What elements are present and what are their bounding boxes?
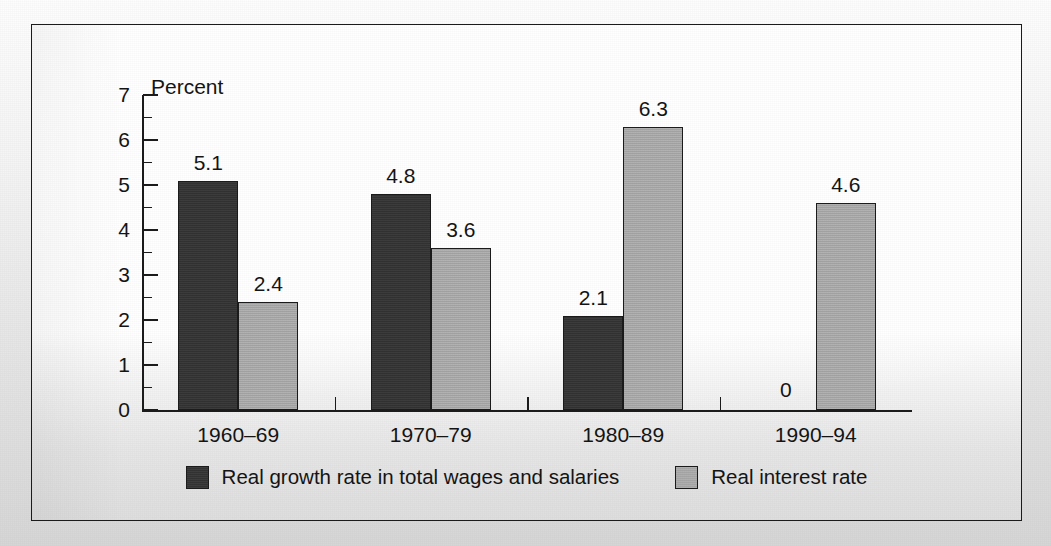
chart-legend: Real growth rate in total wages and sala… [32, 465, 1021, 489]
y-tick-minor [143, 387, 152, 389]
y-tick-minor [143, 162, 152, 164]
legend-item: Real growth rate in total wages and sala… [186, 465, 620, 489]
y-tick-label: 6 [118, 128, 130, 152]
y-tick-minor [143, 342, 152, 344]
y-tick-label: 3 [118, 263, 130, 287]
y-tick-minor [143, 117, 152, 119]
bar-value-label: 5.1 [194, 151, 223, 175]
bar-value-label: 3.6 [446, 218, 475, 242]
y-tick-major [143, 229, 158, 231]
chart-figure-frame: Percent 01234567 5.12.44.83.62.16.304.6 … [31, 24, 1022, 521]
y-tick-minor [143, 297, 152, 299]
scanned-page: Percent 01234567 5.12.44.83.62.16.304.6 … [0, 0, 1051, 546]
bar-value-label: 2.4 [254, 272, 283, 296]
bar [431, 248, 491, 410]
y-tick-label: 1 [118, 353, 130, 377]
y-tick-label: 4 [118, 218, 130, 242]
bar [563, 316, 623, 411]
y-tick-major [143, 364, 158, 366]
category-separator-tick [527, 397, 529, 410]
category-separator-tick [720, 397, 722, 410]
y-tick-label: 2 [118, 308, 130, 332]
y-tick-label: 7 [118, 83, 130, 107]
bar [623, 127, 683, 411]
x-axis-category-label: 1970–79 [390, 423, 472, 447]
legend-item: Real interest rate [675, 465, 867, 489]
category-separator-tick [335, 397, 337, 410]
legend-label: Real interest rate [711, 465, 867, 489]
legend-swatch-dark [186, 466, 209, 489]
bar-value-label: 4.6 [831, 173, 860, 197]
y-tick-major [143, 184, 158, 186]
bar [238, 302, 298, 410]
legend-label: Real growth rate in total wages and sala… [222, 465, 620, 489]
y-tick-minor [143, 207, 152, 209]
y-tick-minor [143, 252, 152, 254]
legend-swatch-light [675, 466, 698, 489]
bar [816, 203, 876, 410]
x-axis-line [142, 410, 912, 412]
y-tick-major [143, 274, 158, 276]
y-tick-major [143, 319, 158, 321]
bar-value-label: 2.1 [579, 286, 608, 310]
y-tick-label: 5 [118, 173, 130, 197]
y-tick-label: 0 [118, 398, 130, 422]
y-tick-major [143, 409, 158, 411]
plot-area: 01234567 5.12.44.83.62.16.304.6 [142, 95, 912, 410]
x-axis-category-label: 1960–69 [197, 423, 279, 447]
bar-value-label: 0 [780, 378, 792, 402]
y-tick-major [143, 139, 158, 141]
bar-value-label: 4.8 [386, 164, 415, 188]
bar [371, 194, 431, 410]
y-tick-major [143, 94, 158, 96]
bar-value-label: 6.3 [639, 97, 668, 121]
bar [178, 181, 238, 411]
x-axis-category-label: 1990–94 [775, 423, 857, 447]
x-axis-category-label: 1980–89 [582, 423, 664, 447]
